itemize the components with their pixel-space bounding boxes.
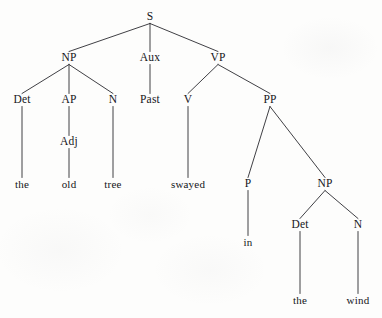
tree-edge-PP-to-P	[248, 107, 270, 178]
tree-edge-S-to-NP1	[69, 24, 150, 52]
category-node-det1: Det	[13, 94, 30, 106]
tree-edge-PP-to-NP2	[270, 107, 325, 178]
terminal-word-old: old	[62, 179, 77, 190]
category-node-n2: N	[354, 219, 363, 231]
tree-edge-NP2-to-Det2	[300, 191, 325, 219]
category-node-det2: Det	[291, 219, 308, 231]
category-node-p: P	[245, 178, 252, 190]
category-node-vp: VP	[210, 52, 225, 64]
syntax-tree-figure: SNPAuxVPDetAPNPastVPPAdjtheoldtreeswayed…	[0, 0, 382, 318]
tree-edge-S-to-VP	[150, 24, 218, 52]
category-node-ap: AP	[61, 94, 76, 106]
terminal-word-the1: the	[15, 179, 29, 190]
category-node-past: Past	[140, 94, 160, 106]
tree-edges	[0, 0, 382, 318]
category-node-v: V	[184, 94, 193, 106]
tree-edge-NP1-to-N1	[69, 65, 113, 94]
tree-edge-NP1-to-Det1	[22, 65, 69, 94]
tree-edge-NP2-to-N2	[325, 191, 358, 219]
tree-edge-VP-to-V	[188, 65, 218, 94]
category-node-adj: Adj	[60, 136, 78, 148]
category-node-pp: PP	[263, 94, 276, 106]
category-node-s: S	[147, 11, 154, 23]
terminal-word-tree: tree	[104, 179, 121, 190]
terminal-word-in: in	[244, 237, 253, 248]
category-node-n1: N	[109, 94, 118, 106]
terminal-word-swayed: swayed	[171, 179, 205, 190]
terminal-word-wind: wind	[347, 295, 370, 306]
category-node-aux: Aux	[140, 52, 160, 64]
tree-edge-VP-to-PP	[218, 65, 270, 94]
category-node-np1: NP	[61, 52, 76, 64]
category-node-np2: NP	[317, 178, 332, 190]
terminal-word-the2: the	[293, 295, 307, 306]
